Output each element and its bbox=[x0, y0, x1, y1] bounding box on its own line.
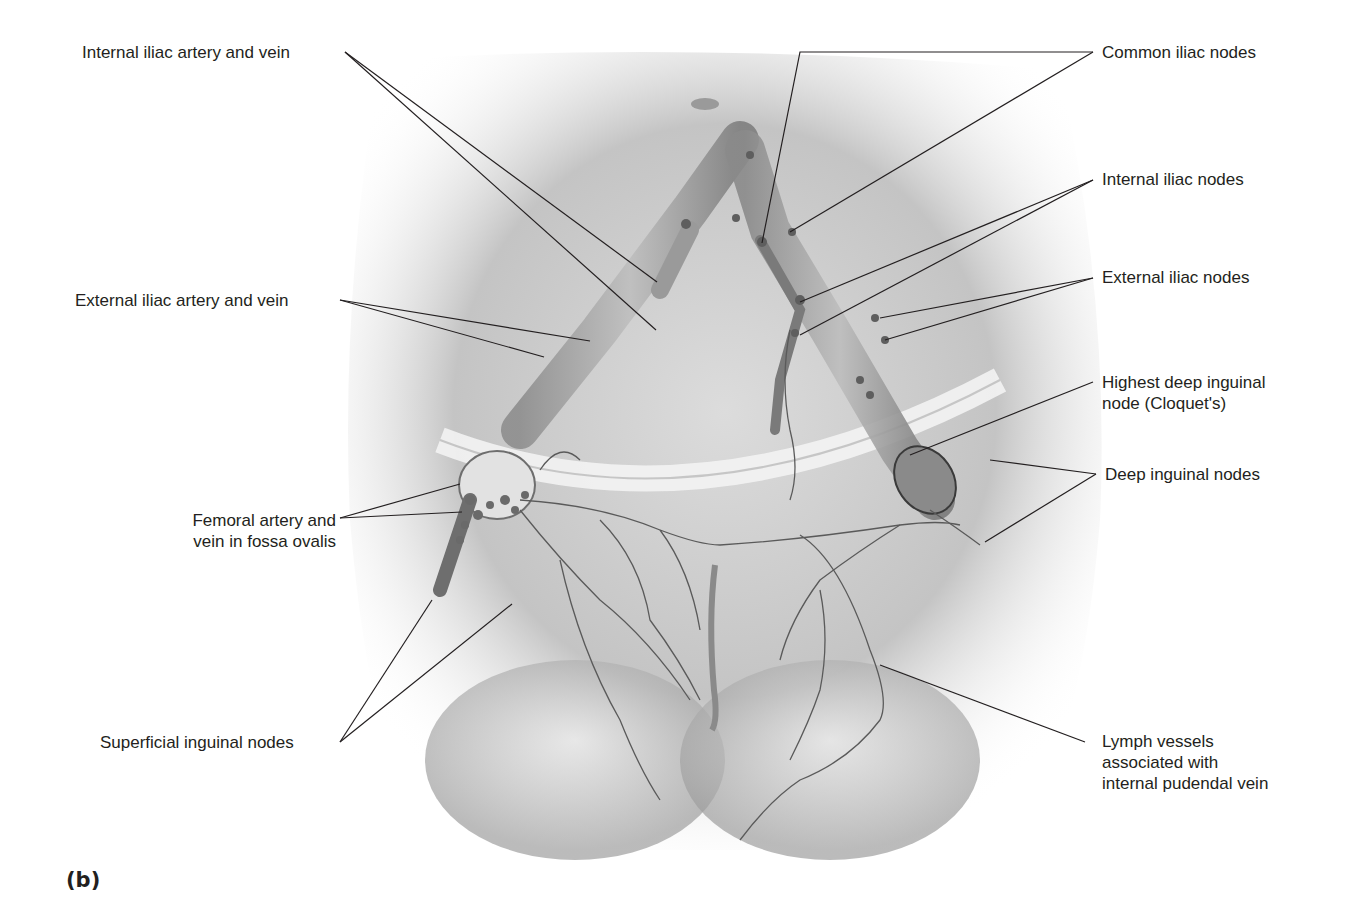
label-line: Lymph vessels bbox=[1102, 731, 1268, 752]
panel-label: (b) bbox=[66, 868, 100, 892]
label-internal-iliac-nodes: Internal iliac nodes bbox=[1102, 169, 1244, 190]
label-internal-iliac-artery-vein: Internal iliac artery and vein bbox=[82, 42, 290, 63]
label-line: associated with bbox=[1102, 752, 1268, 773]
label-line: Highest deep inguinal bbox=[1102, 372, 1266, 393]
umbilicus bbox=[691, 98, 719, 110]
label-superficial-inguinal-nodes: Superficial inguinal nodes bbox=[100, 732, 294, 753]
label-femoral-artery-vein: Femoral artery and vein in fossa ovalis bbox=[148, 510, 336, 552]
label-external-iliac-nodes: External iliac nodes bbox=[1102, 267, 1249, 288]
label-highest-deep-inguinal-node: Highest deep inguinal node (Cloquet's) bbox=[1102, 372, 1266, 414]
label-deep-inguinal-nodes: Deep inguinal nodes bbox=[1105, 464, 1260, 485]
label-lymph-vessels-pudendal: Lymph vessels associated with internal p… bbox=[1102, 731, 1268, 794]
label-common-iliac-nodes: Common iliac nodes bbox=[1102, 42, 1256, 63]
label-line: Femoral artery and bbox=[148, 510, 336, 531]
label-line: internal pudendal vein bbox=[1102, 773, 1268, 794]
label-external-iliac-artery-vein: External iliac artery and vein bbox=[75, 290, 289, 311]
label-line: node (Cloquet's) bbox=[1102, 393, 1266, 414]
anatomical-diagram: Internal iliac artery and vein External … bbox=[0, 0, 1368, 908]
label-line: vein in fossa ovalis bbox=[148, 531, 336, 552]
